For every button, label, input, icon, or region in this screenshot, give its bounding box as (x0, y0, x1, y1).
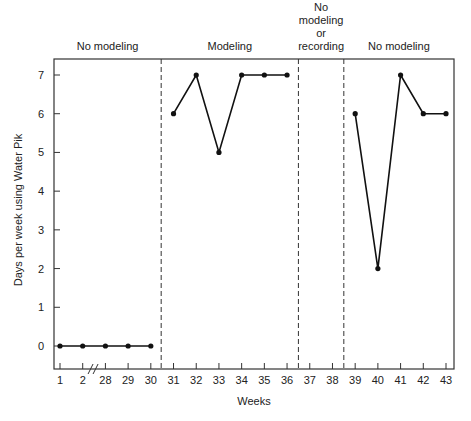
plot-frame (54, 59, 454, 369)
phase-labels: No modelingModelingNomodelingorrecording… (77, 1, 430, 52)
x-axis-title: Weeks (237, 395, 271, 407)
y-tick-label: 3 (38, 224, 44, 236)
x-tick-label: 29 (122, 374, 134, 386)
data-point (80, 343, 85, 348)
plot-border (54, 59, 454, 369)
phase-label-line: Modeling (207, 40, 252, 52)
x-tick-label: 40 (372, 374, 384, 386)
data-point (353, 111, 358, 116)
x-tick-label: 35 (258, 374, 270, 386)
y-tick-label: 1 (38, 301, 44, 313)
x-tick-label: 37 (304, 374, 316, 386)
y-tick-label: 0 (38, 340, 44, 352)
phase-label-line: No modeling (77, 40, 139, 52)
series-modeling (171, 72, 290, 155)
phase-label: Modeling (207, 40, 252, 52)
data-point (262, 72, 267, 77)
x-tick-label: 28 (99, 374, 111, 386)
data-point (103, 343, 108, 348)
x-axis: 1228293031323334353637383940414243 (57, 363, 452, 386)
data-point (443, 111, 448, 116)
data-point (239, 72, 244, 77)
y-tick-label: 5 (38, 146, 44, 158)
series-line (174, 75, 288, 152)
phase-label-line: modeling (299, 14, 344, 26)
y-tick-label: 4 (38, 185, 44, 197)
x-tick-label: 38 (326, 374, 338, 386)
data-point (398, 72, 403, 77)
data-point (375, 266, 380, 271)
data-point (171, 111, 176, 116)
y-axis: 01234567 (38, 69, 60, 352)
series-return-to-baseline (353, 72, 449, 271)
x-tick-label: 2 (80, 374, 86, 386)
series-line (355, 75, 446, 269)
x-tick-label: 36 (281, 374, 293, 386)
x-tick-label: 32 (190, 374, 202, 386)
x-tick-label: 34 (236, 374, 248, 386)
y-tick-label: 2 (38, 263, 44, 275)
series-baseline (57, 343, 153, 348)
phase-label-line: or (316, 27, 326, 39)
chart: No modelingModelingNomodelingorrecording… (0, 0, 471, 421)
x-tick-label: 43 (440, 374, 452, 386)
data-point (284, 72, 289, 77)
x-tick-label: 41 (394, 374, 406, 386)
phase-label: Nomodelingorrecording (298, 1, 344, 52)
data-point (421, 111, 426, 116)
phase-dividers (161, 59, 344, 369)
data-point (126, 343, 131, 348)
phase-label: No modeling (368, 40, 430, 52)
phase-label-line: No (314, 1, 328, 13)
phase-label-line: No modeling (368, 40, 430, 52)
data-point (216, 150, 221, 155)
data-point (194, 72, 199, 77)
x-tick-label: 39 (349, 374, 361, 386)
y-axis-title: Days per week using Water Pik (12, 133, 24, 286)
x-tick-label: 1 (57, 374, 63, 386)
y-tick-label: 7 (38, 69, 44, 81)
series-group (57, 72, 448, 348)
x-tick-label: 33 (213, 374, 225, 386)
phase-label: No modeling (77, 40, 139, 52)
x-tick-label: 42 (417, 374, 429, 386)
data-point (148, 343, 153, 348)
x-tick-label: 31 (167, 374, 179, 386)
y-tick-label: 6 (38, 108, 44, 120)
data-point (57, 343, 62, 348)
x-tick-label: 30 (145, 374, 157, 386)
phase-label-line: recording (298, 40, 344, 52)
